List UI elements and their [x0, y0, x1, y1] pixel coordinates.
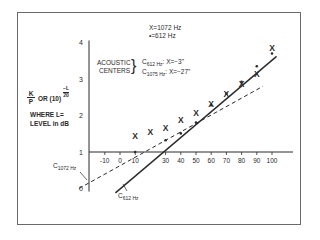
- acoustic-label: ACOUSTIC: [97, 59, 131, 66]
- dot-marker-612hz: [134, 151, 137, 154]
- legend-x-marker: X=1072 Hz: [149, 24, 181, 31]
- x-marker-1072hz: X: [132, 131, 138, 141]
- x-marker-1072hz: X: [269, 43, 275, 53]
- x-tick-label: 40: [177, 157, 185, 164]
- x-marker-1072hz: X: [178, 115, 184, 125]
- c612-annotation: C612 Hz: X=−3": [142, 58, 184, 68]
- dot-marker-612hz: [225, 92, 228, 95]
- x-marker-1072hz: X: [208, 99, 214, 109]
- y-title-or: OR (10): [38, 95, 61, 102]
- where-label: WHERE L=: [30, 111, 64, 118]
- x-tick-label: 80: [238, 157, 246, 164]
- y-title-exponent: −L 20: [63, 86, 69, 99]
- y-tick-label: 2: [79, 112, 83, 119]
- x-tick-label: 90: [253, 157, 261, 164]
- dot-marker-612hz: [210, 104, 213, 107]
- y-tick-label: 3: [79, 76, 83, 83]
- dot-marker-612hz: [195, 121, 198, 124]
- x-marker-1072hz: X: [254, 69, 260, 79]
- c612-line-label: C612 Hz: [118, 192, 139, 202]
- level-label: LEVEL in dB: [30, 120, 69, 127]
- dot-marker-612hz: [255, 65, 258, 68]
- x-tick-label: 60: [208, 157, 216, 164]
- x-marker-1072hz: X: [193, 108, 199, 118]
- c1072-line-label: C1072 Hz: [53, 162, 76, 172]
- x-tick-label: 70: [223, 157, 231, 164]
- x-tick-label: 10: [132, 157, 140, 164]
- fit-line-1072hz: [79, 86, 263, 188]
- y-title-fraction: K P: [27, 90, 35, 106]
- brace-icon: }: [131, 57, 136, 75]
- fit-line-612hz: [115, 56, 276, 193]
- x-tick-label: 50: [192, 157, 200, 164]
- x-marker-1072hz: X: [163, 123, 169, 133]
- dot-marker-612hz: [164, 139, 167, 142]
- x-tick-label: 100: [267, 157, 278, 164]
- dot-marker-612hz: [271, 52, 274, 55]
- y-tick-label: 4: [79, 39, 83, 46]
- x-tick-label: 0: [118, 157, 122, 164]
- legend-dot-marker: •=612 Hz: [149, 32, 176, 39]
- x-tick-label: -10: [100, 157, 110, 164]
- x-marker-1072hz: X: [239, 79, 245, 89]
- c1075-annotation: C1075 Hz: X=−27": [142, 68, 190, 78]
- centers-label: CENTERS: [99, 67, 130, 74]
- dot-marker-612hz: [240, 81, 243, 84]
- x-tick-label: 30: [162, 157, 170, 164]
- y-tick-label: 1: [79, 149, 83, 156]
- dot-marker-612hz: [180, 132, 183, 135]
- c1072-pointer: [80, 172, 87, 180]
- x-marker-1072hz: X: [148, 127, 154, 137]
